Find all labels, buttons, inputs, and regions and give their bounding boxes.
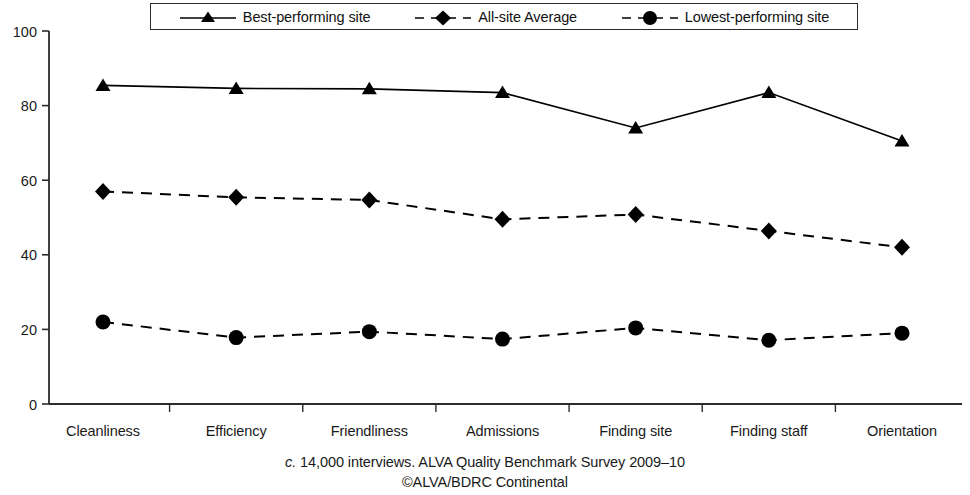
data-point-marker [628, 206, 644, 223]
x-axis-ticks [170, 404, 836, 412]
data-point-marker [894, 239, 910, 256]
chart-caption: c. 14,000 interviews. ALVA Quality Bench… [0, 452, 970, 492]
y-axis-tick-label: 100 [13, 24, 37, 40]
y-axis-tick-label: 80 [21, 98, 37, 114]
caption-prefix: c. [285, 454, 296, 470]
caption-line-2: ©ALVA/BDRC Continental [0, 472, 970, 492]
x-axis-category-label: Friendliness [331, 423, 408, 439]
x-axis-category-label: Orientation [867, 423, 937, 439]
y-axis-tick-label: 60 [21, 173, 37, 189]
data-point-marker [229, 330, 244, 345]
data-point-marker [362, 324, 377, 339]
caption-line-1: c. 14,000 interviews. ALVA Quality Bench… [0, 452, 970, 472]
y-axis-tick-label: 40 [21, 247, 37, 263]
chart-figure: Best-performing site All-site Average Lo… [0, 0, 970, 495]
chart-plot-area: 020406080100 CleanlinessEfficiencyFriend… [0, 0, 970, 452]
data-point-marker [495, 211, 511, 228]
data-point-marker [895, 326, 910, 341]
data-point-marker [95, 183, 111, 200]
x-axis-category-labels: CleanlinessEfficiencyFriendlinessAdmissi… [66, 423, 937, 439]
x-axis-category-label: Finding staff [730, 423, 808, 439]
y-axis-tick-label: 20 [21, 322, 37, 338]
x-axis-category-label: Efficiency [206, 423, 268, 439]
y-axis-tick-label: 0 [29, 397, 37, 413]
x-axis-category-label: Finding site [599, 423, 672, 439]
data-point-marker [228, 189, 244, 206]
data-point-marker [96, 314, 111, 329]
caption-line-1-rest: 14,000 interviews. ALVA Quality Benchmar… [296, 454, 685, 470]
data-point-marker [761, 222, 777, 239]
x-axis-category-label: Cleanliness [66, 423, 140, 439]
data-point-marker [761, 333, 776, 348]
data-point-marker [96, 78, 111, 91]
chart-series-markers [95, 78, 910, 347]
data-point-marker [361, 191, 377, 208]
y-axis-ticks: 020406080100 [13, 24, 49, 413]
data-point-marker [895, 134, 910, 147]
x-axis-category-label: Admissions [466, 423, 539, 439]
data-point-marker [761, 86, 776, 99]
data-point-marker [495, 332, 510, 347]
data-point-marker [628, 320, 643, 335]
